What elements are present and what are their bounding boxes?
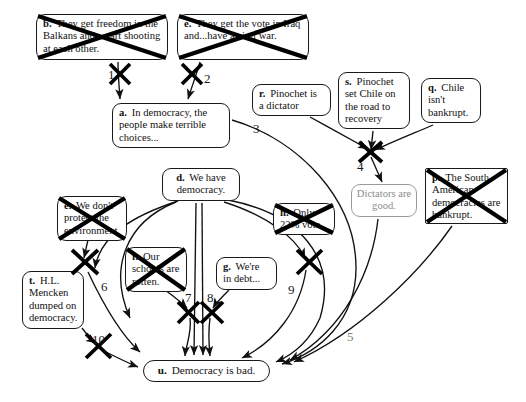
edge-label-10: 10 bbox=[92, 333, 105, 346]
edge-label-layer: 1 2 3 4 5 6 7 8 9 10 bbox=[0, 0, 526, 402]
edge-label-2: 2 bbox=[204, 72, 211, 85]
edge-label-7: 7 bbox=[185, 291, 192, 304]
edge-label-4: 4 bbox=[357, 160, 364, 173]
argument-map-diagram: b. They get freedom in the Balkans and..… bbox=[0, 0, 526, 402]
edge-label-6: 6 bbox=[101, 280, 108, 293]
edge-label-9: 9 bbox=[288, 283, 295, 296]
edge-label-1: 1 bbox=[108, 68, 115, 81]
edge-label-8: 8 bbox=[207, 291, 214, 304]
edge-label-3: 3 bbox=[253, 122, 260, 135]
edge-label-5: 5 bbox=[347, 330, 354, 343]
